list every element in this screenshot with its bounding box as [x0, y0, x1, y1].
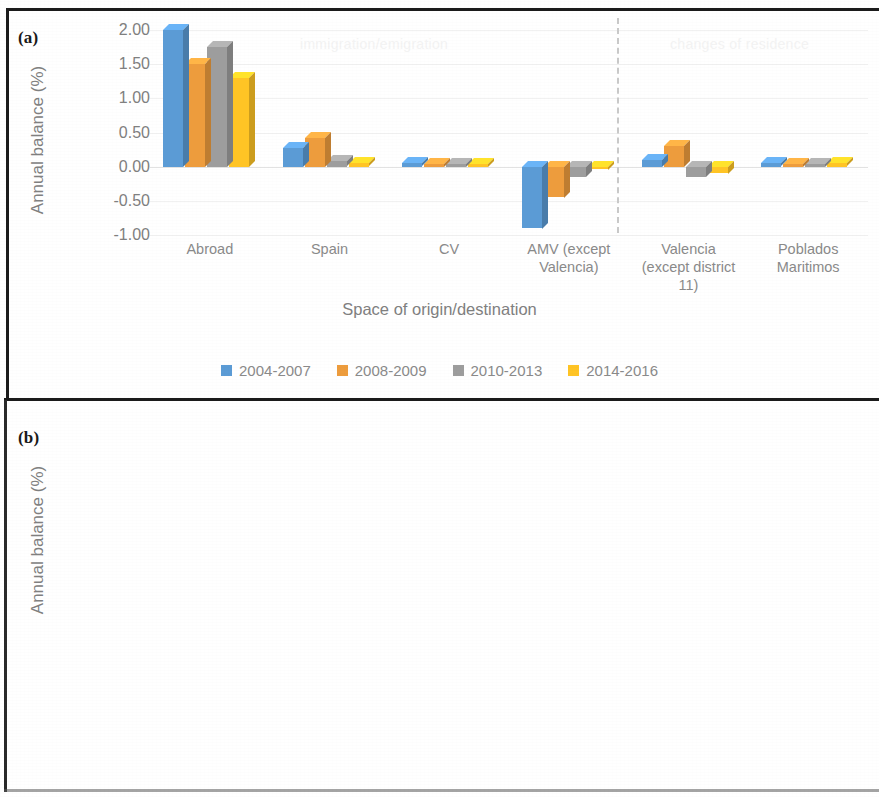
bar-side-face — [205, 58, 211, 167]
legend-label: 2004-2007 — [239, 362, 311, 379]
bar-2010-2013-valencia — [686, 167, 706, 177]
legend-label: 2014-2016 — [586, 362, 658, 379]
chart-panel-b: (b) Annual balance (%) 3.503.002.502.001… — [0, 400, 879, 797]
bar-2004-2007-poblados — [761, 163, 781, 166]
bar-front-face — [642, 160, 662, 167]
y-axis-tick-label: 0.50 — [119, 125, 150, 141]
bar-front-face — [402, 163, 422, 166]
bar-group — [761, 30, 847, 235]
bar-2004-2007-valencia — [642, 160, 662, 167]
legend-swatch-icon — [453, 365, 464, 376]
x-axis-title-a: Space of origin/destination — [0, 300, 879, 319]
legend-swatch-icon — [221, 365, 232, 376]
bar-front-face — [468, 164, 488, 167]
bar-side-face — [325, 132, 331, 167]
bar-front-face — [783, 164, 803, 167]
bar-2004-2007-spain — [283, 148, 303, 167]
bar-2014-2016-spain — [349, 163, 369, 166]
legend-item[interactable]: 2010-2013 — [453, 362, 543, 379]
bar-front-face — [446, 164, 466, 167]
y-axis-tick-label: -0.50 — [114, 193, 150, 209]
x-axis-tick-label: PobladosMaritimos — [738, 240, 878, 276]
bar-2004-2007-cv — [402, 163, 422, 166]
bar-front-face — [686, 167, 706, 177]
y-axis-tick-label: 1.50 — [119, 56, 150, 72]
bar-front-face — [424, 164, 444, 167]
y-axis-tick-label: 0.00 — [119, 159, 150, 175]
y-axis-ticks-a: 2.001.501.000.500.00-0.50-1.00 — [88, 0, 150, 398]
y-axis-title-b: Annual balance (%) — [28, 440, 48, 640]
bar-side-face — [564, 161, 570, 198]
bar-2010-2013-poblados — [805, 164, 825, 167]
bar-side-face — [227, 41, 233, 167]
bar-2014-2016-cv — [468, 164, 488, 167]
bar-group — [642, 30, 728, 235]
legend-swatch-icon — [337, 365, 348, 376]
bar-2014-2016-poblados — [827, 163, 847, 166]
bar-group — [402, 30, 488, 235]
bar-side-face — [542, 161, 548, 229]
bar-side-face — [183, 24, 189, 167]
gridline — [150, 235, 868, 236]
bar-front-face — [805, 164, 825, 167]
legend-item[interactable]: 2008-2009 — [337, 362, 427, 379]
bar-front-face — [283, 148, 303, 167]
bar-side-face — [249, 72, 255, 167]
bar-group — [163, 30, 249, 235]
legend-label: 2010-2013 — [471, 362, 543, 379]
bar-2008-2009-cv — [424, 164, 444, 167]
bar-group — [522, 30, 608, 235]
legend-item[interactable]: 2014-2016 — [568, 362, 658, 379]
y-axis-tick-label: 2.00 — [119, 22, 150, 38]
legend-label: 2008-2009 — [355, 362, 427, 379]
y-axis-ticks-b: 3.503.002.502.001.501.000.500.00-0.50-1.… — [88, 400, 150, 797]
bar-2008-2009-poblados — [783, 164, 803, 167]
legend-swatch-icon — [568, 365, 579, 376]
bar-front-face — [349, 163, 369, 166]
section-divider-dashed — [617, 18, 619, 233]
y-axis-tick-label: 1.00 — [119, 90, 150, 106]
bar-2004-2007-abroad — [163, 30, 183, 167]
bar-front-face — [522, 167, 542, 229]
bar-front-face — [761, 163, 781, 166]
chart-panel-a: (a) Annual balance (%) 2.001.501.000.500… — [0, 0, 879, 398]
legend-a: 2004-20072008-20092010-20132014-2016 — [0, 362, 879, 379]
plot-area-a: immigration/emigrationchanges of residen… — [150, 30, 868, 235]
y-axis-title-a: Annual balance (%) — [28, 40, 48, 240]
legend-item[interactable]: 2004-2007 — [221, 362, 311, 379]
bar-group — [283, 30, 369, 235]
bar-2010-2013-cv — [446, 164, 466, 167]
bar-front-face — [163, 30, 183, 167]
bar-2004-2007-amv — [522, 167, 542, 229]
bar-front-face — [827, 163, 847, 166]
